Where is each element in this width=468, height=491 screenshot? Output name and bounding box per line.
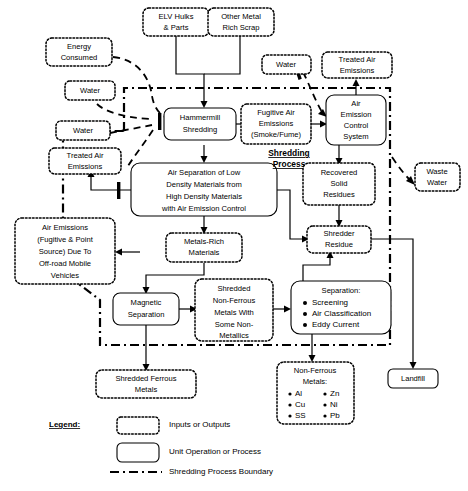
legend-label-boundary: Shredding Process Boundary bbox=[169, 467, 273, 476]
water-left-label: Water bbox=[73, 126, 93, 135]
bullet-icon bbox=[288, 392, 291, 395]
hammermill-line-1: Hammermill bbox=[180, 113, 221, 122]
air-separation-line-2: Density Materials from bbox=[166, 180, 242, 189]
bullet-icon bbox=[288, 403, 291, 406]
arrowhead-air-separation-in bbox=[201, 156, 208, 163]
bullet-icon bbox=[303, 323, 307, 327]
box-air-emissions-mobile-vehicles: Air Emissions (Fugitive & Point Source) … bbox=[15, 218, 115, 284]
separation-bullet-1: Screening bbox=[312, 298, 348, 307]
nonferrous-heading-1: Non-Ferrous bbox=[294, 366, 337, 375]
box-hammermill-shredding: Hammermill Shredding bbox=[164, 108, 236, 140]
shredded-nonferrous-line-3: Metals With bbox=[214, 308, 254, 317]
nonferrous-item-right-2: Ni bbox=[330, 400, 338, 409]
box-water-left: Water bbox=[56, 121, 110, 140]
bullet-icon bbox=[323, 414, 326, 417]
energy-consumed-line-2: Consumed bbox=[61, 53, 98, 62]
legend-swatch-inputs-outputs bbox=[117, 417, 159, 434]
shredded-nonferrous-line-5: Metallics bbox=[219, 331, 249, 340]
nonferrous-item-right-3: Pb bbox=[330, 411, 340, 420]
shredded-ferrous-line-2: Metals bbox=[135, 385, 158, 394]
recovered-line-2: Solid bbox=[331, 179, 348, 188]
aecs-line-4: System bbox=[343, 132, 368, 141]
tick-hammermill-boundary bbox=[158, 113, 161, 130]
box-magnetic-separation: Magnetic Separation bbox=[113, 293, 179, 325]
bullet-icon bbox=[303, 312, 307, 316]
legend-title: Legend: bbox=[49, 420, 80, 429]
landfill-label: Landfill bbox=[401, 374, 425, 383]
magnetic-line-2: Separation bbox=[128, 310, 165, 319]
hammermill-line-2: Shredding bbox=[183, 125, 218, 134]
shredded-nonferrous-line-4: Some Non- bbox=[215, 320, 254, 329]
flow-air-separation-to-treated-air-left bbox=[91, 175, 131, 190]
box-metals-rich-materials: Metals-Rich Materials bbox=[166, 233, 242, 262]
box-fugitive-air-emissions: Fugitive Air Emissions (Smoke/Fume) bbox=[241, 104, 311, 144]
shredder-residue-line-2: Residue bbox=[325, 240, 353, 249]
separation-bullet-3: Eddy Current bbox=[312, 320, 360, 329]
shredded-nonferrous-line-2: Non-Ferrous bbox=[213, 296, 256, 305]
box-treated-air-emissions-right: Treated Air Emissions bbox=[322, 52, 392, 78]
box-energy-consumed: Energy Consumed bbox=[46, 38, 112, 66]
bullet-icon bbox=[288, 414, 291, 417]
box-recovered-solid-residues: Recovered Solid Residues bbox=[303, 163, 375, 205]
dashflow-boundary-to-waste-water bbox=[392, 157, 410, 180]
other-metal-scrap-line-2: Rich Scrap bbox=[222, 23, 259, 32]
separation-heading: Separation: bbox=[322, 286, 361, 295]
box-landfill: Landfill bbox=[388, 369, 438, 388]
magnetic-line-1: Magnetic bbox=[131, 298, 162, 307]
energy-consumed-line-1: Energy bbox=[67, 42, 91, 51]
legend: Legend: Inputs or Outputs Unit Operation… bbox=[49, 417, 273, 476]
elv-hulks-line-2: & Parts bbox=[164, 23, 189, 32]
box-other-metal-rich-scrap: Other Metal Rich Scrap bbox=[208, 8, 274, 36]
flow-air-separation-to-shredder-residue bbox=[277, 190, 304, 239]
nonferrous-heading-2: Metals: bbox=[303, 377, 327, 386]
shredded-nonferrous-line-1: Shredded bbox=[218, 284, 251, 293]
legend-swatch-unit-operation bbox=[117, 443, 159, 462]
recovered-line-3: Residues bbox=[323, 190, 355, 199]
treated-air-right-line-1: Treated Air bbox=[339, 55, 376, 64]
dashflow-water-left-to-hammermill bbox=[110, 125, 152, 133]
box-shredder-residue: Shredder Residue bbox=[307, 226, 371, 253]
aecs-line-1: Air bbox=[351, 99, 361, 108]
treated-air-left-line-2: Emissions bbox=[68, 162, 103, 171]
box-water-right: Water bbox=[262, 55, 311, 74]
elv-hulks-line-1: ELV Hulks bbox=[159, 12, 194, 21]
arrowhead-nonferrous-metals-in bbox=[309, 355, 316, 362]
air-emissions-mobile-line-2: (Fugitive & Point bbox=[37, 235, 94, 244]
nonferrous-item-left-1: Al bbox=[295, 389, 302, 398]
box-separation: Separation: Screening Air Classification… bbox=[291, 281, 391, 334]
nonferrous-item-left-3: SS bbox=[295, 411, 306, 420]
legend-label-unit-operation: Unit Operation or Process bbox=[169, 447, 261, 456]
fugitive-line-1: Fugitive Air bbox=[257, 108, 295, 117]
shredding-process-flow-diagram: ELV Hulks & Parts Other Metal Rich Scrap… bbox=[0, 0, 468, 491]
box-treated-air-emissions-left: Treated Air Emissions bbox=[49, 148, 121, 174]
other-metal-scrap-line-1: Other Metal bbox=[221, 12, 261, 21]
aecs-line-2: Emission bbox=[341, 110, 372, 119]
fugitive-line-3: (Smoke/Fume) bbox=[251, 130, 302, 139]
separation-bullet-2: Air Classification bbox=[312, 309, 371, 318]
tick-treated-air-boundary bbox=[117, 182, 120, 199]
box-shredded-non-ferrous-metals: Shredded Non-Ferrous Metals With Some No… bbox=[195, 279, 273, 341]
box-air-emission-control-system: Air Emission Control System bbox=[326, 95, 386, 145]
treated-air-left-line-1: Treated Air bbox=[67, 151, 104, 160]
arrowhead-landfill-in bbox=[410, 362, 417, 369]
box-non-ferrous-metals: Non-Ferrous Metals: Al Cu SS Zn Ni Pb bbox=[277, 362, 354, 424]
box-air-separation: Air Separation of Low Density Materials … bbox=[131, 163, 277, 216]
air-emissions-mobile-line-4: Off-road Mobile bbox=[39, 259, 91, 268]
flow-elv-to-hammermill bbox=[176, 36, 204, 103]
shredded-ferrous-line-1: Shredded Ferrous bbox=[115, 374, 176, 383]
arrowhead-treated-air-right-in bbox=[353, 79, 360, 86]
air-emissions-mobile-line-3: Source) Due To bbox=[39, 247, 92, 256]
aecs-line-3: Control bbox=[344, 121, 369, 130]
box-waste-water: Waste Water bbox=[415, 163, 460, 191]
recovered-line-1: Recovered bbox=[321, 168, 358, 177]
shredding-process-line-1: Shredding bbox=[268, 148, 309, 158]
waste-water-line-2: Water bbox=[427, 178, 447, 187]
fugitive-line-2: Emissions bbox=[259, 119, 294, 128]
air-emissions-mobile-line-1: Air Emissions bbox=[42, 223, 88, 232]
metals-rich-line-2: Materials bbox=[189, 248, 220, 257]
nonferrous-item-right-1: Zn bbox=[330, 389, 339, 398]
dashflow-hammermill-to-air-separation-side bbox=[128, 130, 153, 166]
bullet-icon bbox=[323, 392, 326, 395]
bullet-icon bbox=[303, 301, 307, 305]
shredding-process-line-2: Process bbox=[273, 159, 306, 169]
